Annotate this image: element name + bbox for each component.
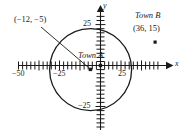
x-tick-label-neg25: −25 bbox=[53, 70, 66, 78]
circle-center-label: (−12, −5) bbox=[14, 15, 46, 24]
point-circle-center bbox=[89, 68, 92, 71]
y-axis-name-label: y bbox=[103, 2, 107, 10]
town-b-label: Town B bbox=[135, 11, 160, 20]
y-tick-label-neg25: −25 bbox=[78, 102, 91, 110]
town-b-coords-label: (36, 15) bbox=[133, 24, 160, 33]
town-a-label: Town A bbox=[78, 51, 103, 60]
x-tick-label-neg50: −50 bbox=[12, 70, 25, 78]
leader-line bbox=[41, 27, 89, 68]
x-axis-ticks bbox=[19, 61, 158, 71]
point-town-a bbox=[99, 64, 102, 67]
coordinate-plane-figure: (−12, −5) Town A Town B (36, 15) −50 −25… bbox=[0, 0, 185, 137]
point-town-b bbox=[154, 41, 157, 44]
x-tick-label-pos25: 25 bbox=[118, 70, 126, 78]
y-tick-label-pos25: 25 bbox=[83, 20, 91, 28]
x-axis-name-label: x bbox=[175, 60, 179, 68]
y-axis bbox=[97, 5, 104, 130]
